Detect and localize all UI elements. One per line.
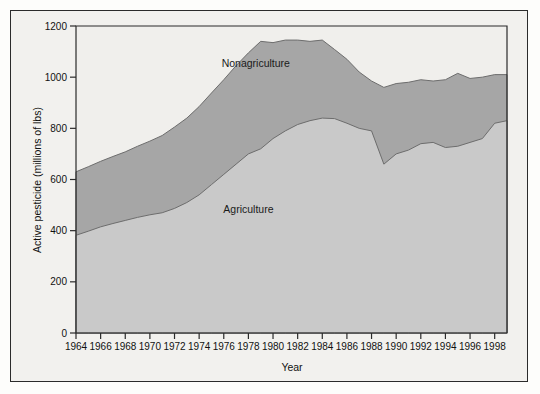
x-axis-tick-label: 1992 [410, 341, 433, 352]
y-axis-tick-label: 800 [50, 123, 67, 134]
series-label-nonagriculture: Nonagriculture [222, 57, 290, 69]
x-axis-tick-label: 1964 [65, 341, 88, 352]
x-axis-title: Year [281, 361, 303, 373]
y-axis-title: Active pesticide (millions of lbs) [31, 107, 43, 253]
y-axis-tick-label: 1000 [45, 72, 68, 83]
x-axis-tick-label: 1978 [237, 341, 260, 352]
x-axis-tick-label: 1990 [385, 341, 408, 352]
x-axis-tick-label: 1980 [262, 341, 285, 352]
x-axis-tick-label: 1966 [90, 341, 113, 352]
x-axis-tick-label: 1968 [114, 341, 137, 352]
x-axis-tick-label: 1988 [360, 341, 383, 352]
chart-page: 0200400600800100012001964196619681970197… [0, 0, 540, 394]
x-axis-tick-label: 1994 [434, 341, 457, 352]
x-axis-tick-label: 1996 [459, 341, 482, 352]
x-axis-tick-label: 1998 [484, 341, 507, 352]
x-axis-tick-label: 1970 [139, 341, 162, 352]
x-axis-tick-label: 1974 [188, 341, 211, 352]
x-axis-tick-label: 1982 [287, 341, 310, 352]
y-axis-tick-label: 200 [50, 276, 67, 287]
y-axis-tick-label: 1200 [45, 21, 68, 32]
x-axis-tick-label: 1984 [311, 341, 334, 352]
y-axis-tick-label: 0 [61, 328, 67, 339]
y-axis-tick-label: 600 [50, 174, 67, 185]
x-axis-tick-label: 1972 [163, 341, 186, 352]
x-axis-tick-label: 1986 [336, 341, 359, 352]
y-axis-tick-label: 400 [50, 225, 67, 236]
x-axis-tick-label: 1976 [213, 341, 236, 352]
pesticide-area-chart: 0200400600800100012001964196619681970197… [0, 0, 540, 394]
series-label-agriculture: Agriculture [223, 203, 273, 215]
